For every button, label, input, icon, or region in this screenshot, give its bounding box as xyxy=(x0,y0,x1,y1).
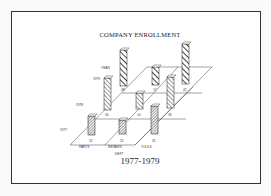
year-label-1977: 1977 xyxy=(60,128,67,132)
value-1977-repairs: 15 xyxy=(120,139,124,143)
value-1977-parts: 22 xyxy=(89,139,93,143)
value-1979-parts: 38 xyxy=(121,88,125,92)
dept-label-repairs: REPAIRS xyxy=(108,145,122,149)
year-label-1978: 1978 xyxy=(76,103,83,107)
bars-1979 xyxy=(120,42,191,86)
value-1977-tools: 31 xyxy=(152,139,156,143)
chart-subtitle: 1977-1979 xyxy=(100,156,180,166)
value-1979-tools: 42 xyxy=(183,88,187,92)
bars-1978 xyxy=(104,75,176,110)
value-1979-repairs: 17 xyxy=(153,88,157,92)
chart-plot: 38 17 42 30 14 28 22 15 31 YEAR 1979 197… xyxy=(0,0,271,196)
value-1978-tools: 28 xyxy=(168,113,172,117)
dept-label-parts: PARTS xyxy=(79,145,89,149)
value-1978-repairs: 14 xyxy=(137,113,141,117)
year-axis-label: YEAR xyxy=(101,66,110,70)
value-1978-parts: 30 xyxy=(105,113,109,117)
year-label-1979: 1979 xyxy=(93,77,100,81)
dept-label-tools: TOOLS xyxy=(141,145,152,149)
